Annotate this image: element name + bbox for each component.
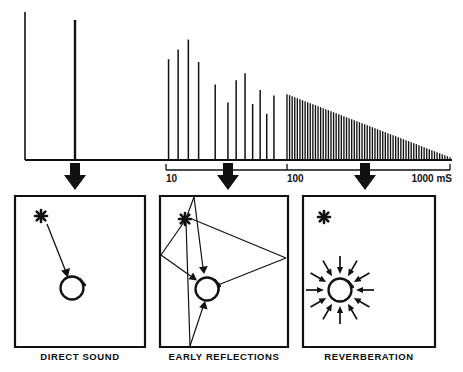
panel-2-listener-circle-icon (196, 278, 221, 301)
panel-1-source-star-icon (35, 210, 47, 222)
panel-2-source-star-icon (179, 213, 191, 225)
panel-2-caption: EARLY REFLECTIONS (168, 351, 279, 362)
panel-1-listener-circle-icon (61, 277, 86, 300)
axis-tick-label-1000: 1000 mS (411, 173, 452, 184)
axis-tick-label-100: 100 (287, 173, 304, 184)
sound-arrival-figure: 10 100 1000 mS (0, 0, 463, 372)
panel-3-caption: REVERBERATION (324, 351, 413, 362)
axis-tick-label-10: 10 (166, 173, 178, 184)
panel-1-caption: DIRECT SOUND (40, 351, 120, 362)
panel-3-listener-circle-icon (329, 279, 354, 302)
panel-3-source-star-icon (318, 211, 330, 223)
figure-background (0, 0, 463, 372)
